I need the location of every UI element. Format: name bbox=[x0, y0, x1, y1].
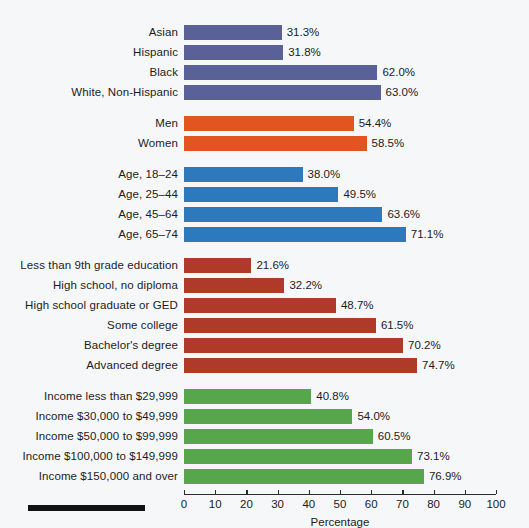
bar-group-age: Age, 18–2438.0%Age, 25–4449.5%Age, 45–64… bbox=[0, 164, 529, 244]
bar bbox=[184, 85, 381, 100]
bar-track: 76.9% bbox=[184, 466, 496, 486]
bar-category-label: Age, 65–74 bbox=[0, 224, 178, 244]
bar-row: Men54.4% bbox=[0, 113, 529, 133]
bar-value-label: 76.9% bbox=[424, 466, 462, 486]
bar bbox=[184, 25, 282, 40]
bar-category-label: Hispanic bbox=[0, 42, 178, 62]
bar-category-label: Income $100,000 to $149,999 bbox=[0, 446, 178, 466]
bar-value-label: 63.6% bbox=[382, 204, 420, 224]
bar bbox=[184, 358, 417, 373]
bar-category-label: Income $50,000 to $99,999 bbox=[0, 426, 178, 446]
x-axis-tick-label: 100 bbox=[486, 498, 505, 510]
bar-chart-rows: Asian31.3%Hispanic31.8%Black62.0%White, … bbox=[0, 22, 529, 486]
bar-row: Asian31.3% bbox=[0, 22, 529, 42]
bar-value-label: 62.0% bbox=[377, 62, 415, 82]
x-axis-tick-label: 40 bbox=[302, 498, 315, 510]
bar-category-label: High school, no diploma bbox=[0, 275, 178, 295]
bar-category-label: Income $30,000 to $49,999 bbox=[0, 406, 178, 426]
bar-row: Advanced degree74.7% bbox=[0, 355, 529, 375]
bar-row: High school, no diploma32.2% bbox=[0, 275, 529, 295]
bar-row: Some college61.5% bbox=[0, 315, 529, 335]
bar-group-race-ethnicity: Asian31.3%Hispanic31.8%Black62.0%White, … bbox=[0, 22, 529, 102]
bar-track: 61.5% bbox=[184, 315, 496, 335]
bar bbox=[184, 167, 303, 182]
x-axis-tick bbox=[246, 490, 247, 495]
x-axis-tick bbox=[465, 490, 466, 495]
x-axis-tick-label: 10 bbox=[209, 498, 222, 510]
bar bbox=[184, 278, 284, 293]
bar-category-label: Income $150,000 and over bbox=[0, 466, 178, 486]
bar-value-label: 58.5% bbox=[367, 133, 405, 153]
bar-value-label: 32.2% bbox=[284, 275, 322, 295]
bar-track: 73.1% bbox=[184, 446, 496, 466]
bar-row: Black62.0% bbox=[0, 62, 529, 82]
x-axis-tick bbox=[309, 490, 310, 495]
bar-track: 60.5% bbox=[184, 426, 496, 446]
bar bbox=[184, 116, 354, 131]
bar-category-label: Less than 9th grade education bbox=[0, 255, 178, 275]
x-axis-tick bbox=[184, 490, 185, 495]
bar bbox=[184, 65, 377, 80]
bar bbox=[184, 45, 283, 60]
bar-category-label: Asian bbox=[0, 22, 178, 42]
x-axis-tick bbox=[496, 490, 497, 495]
bar bbox=[184, 469, 424, 484]
bar-value-label: 31.8% bbox=[283, 42, 321, 62]
bar-row: Less than 9th grade education21.6% bbox=[0, 255, 529, 275]
bar-value-label: 61.5% bbox=[376, 315, 414, 335]
bar-track: 38.0% bbox=[184, 164, 496, 184]
bar-value-label: 31.3% bbox=[282, 22, 320, 42]
x-axis-tick-label: 70 bbox=[396, 498, 409, 510]
x-axis-tick-label: 60 bbox=[365, 498, 378, 510]
bar-row: Age, 25–4449.5% bbox=[0, 184, 529, 204]
x-axis-tick-label: 30 bbox=[271, 498, 284, 510]
bar bbox=[184, 136, 367, 151]
bar-category-label: Age, 18–24 bbox=[0, 164, 178, 184]
bar-category-label: Age, 25–44 bbox=[0, 184, 178, 204]
bar-value-label: 71.1% bbox=[406, 224, 444, 244]
bar-track: 58.5% bbox=[184, 133, 496, 153]
bar-value-label: 49.5% bbox=[338, 184, 376, 204]
bar-value-label: 38.0% bbox=[303, 164, 341, 184]
bar-category-label: White, Non-Hispanic bbox=[0, 82, 178, 102]
bar bbox=[184, 227, 406, 242]
bar-track: 54.4% bbox=[184, 113, 496, 133]
bar-row: Women58.5% bbox=[0, 133, 529, 153]
bar-row: High school graduate or GED48.7% bbox=[0, 295, 529, 315]
x-axis-tick-label: 50 bbox=[334, 498, 347, 510]
bar-group-education: Less than 9th grade education21.6%High s… bbox=[0, 255, 529, 375]
bar-track: 62.0% bbox=[184, 62, 496, 82]
bar-row: Income $50,000 to $99,99960.5% bbox=[0, 426, 529, 446]
bar-track: 49.5% bbox=[184, 184, 496, 204]
bar-row: Age, 65–7471.1% bbox=[0, 224, 529, 244]
bar-track: 63.6% bbox=[184, 204, 496, 224]
bar-value-label: 48.7% bbox=[336, 295, 374, 315]
bar-row: White, Non-Hispanic63.0% bbox=[0, 82, 529, 102]
x-axis-tick bbox=[215, 490, 216, 495]
bar-row: Income less than $29,99940.8% bbox=[0, 386, 529, 406]
x-axis-tick bbox=[278, 490, 279, 495]
bar-value-label: 54.0% bbox=[352, 406, 390, 426]
bar-category-label: Income less than $29,999 bbox=[0, 386, 178, 406]
bar-category-label: Black bbox=[0, 62, 178, 82]
x-axis-tick bbox=[434, 490, 435, 495]
bar-category-label: Some college bbox=[0, 315, 178, 335]
bar-category-label: Age, 45–64 bbox=[0, 204, 178, 224]
x-axis-tick-label: 80 bbox=[427, 498, 440, 510]
bar-value-label: 63.0% bbox=[381, 82, 419, 102]
x-axis-line bbox=[184, 494, 496, 495]
bar-track: 54.0% bbox=[184, 406, 496, 426]
bar-track: 40.8% bbox=[184, 386, 496, 406]
x-axis-tick bbox=[340, 490, 341, 495]
bar-track: 32.2% bbox=[184, 275, 496, 295]
bar-value-label: 54.4% bbox=[354, 113, 392, 133]
bar-track: 48.7% bbox=[184, 295, 496, 315]
bar-row: Hispanic31.8% bbox=[0, 42, 529, 62]
bar bbox=[184, 429, 373, 444]
bar bbox=[184, 338, 403, 353]
bar bbox=[184, 318, 376, 333]
x-axis-tick bbox=[402, 490, 403, 495]
bar bbox=[184, 449, 412, 464]
bar bbox=[184, 207, 382, 222]
